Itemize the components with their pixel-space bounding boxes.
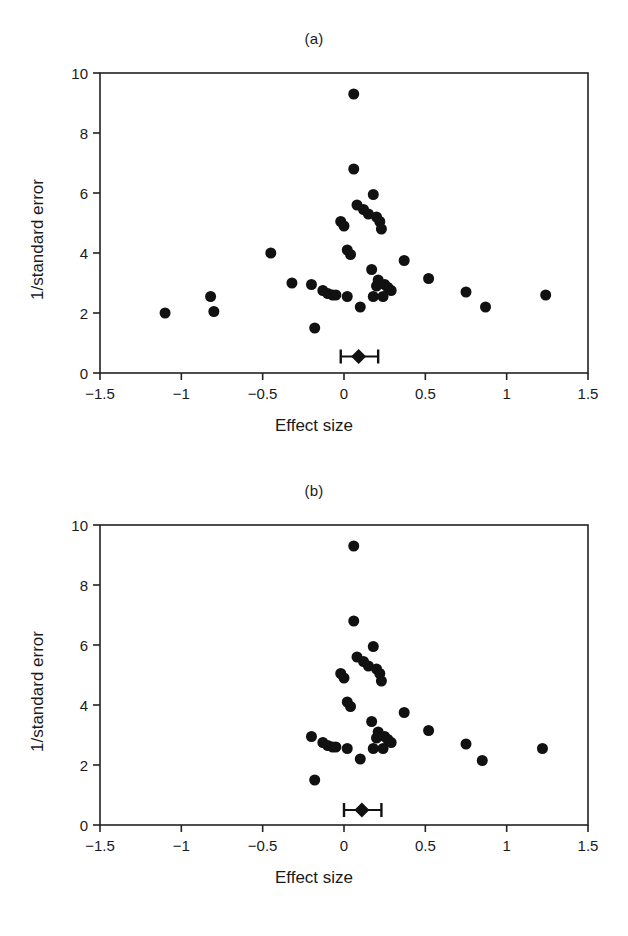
data-point xyxy=(348,89,359,100)
data-point xyxy=(378,291,389,302)
data-point xyxy=(368,641,379,652)
x-axis-tick-label: 0 xyxy=(340,837,348,854)
summary-diamond-icon xyxy=(354,803,369,818)
x-axis-tick-label: −1 xyxy=(173,385,190,402)
x-axis-tick-label: 0.5 xyxy=(415,837,436,854)
data-point xyxy=(342,743,353,754)
data-point xyxy=(208,306,219,317)
data-point xyxy=(309,775,320,786)
funnel-plot-figure: (a) 0246810−1.5−1−0.500.511.5 Effect siz… xyxy=(0,0,628,936)
data-point xyxy=(368,743,379,754)
data-point xyxy=(205,291,216,302)
data-point xyxy=(540,290,551,301)
data-point xyxy=(366,716,377,727)
summary-effect-marker xyxy=(341,349,378,364)
data-point xyxy=(366,264,377,275)
summary-effect-marker xyxy=(344,803,381,818)
data-point xyxy=(330,742,341,753)
x-axis-tick-label: 1 xyxy=(502,385,510,402)
panel-a: (a) 0246810−1.5−1−0.500.511.5 Effect siz… xyxy=(0,0,628,452)
data-point xyxy=(477,755,488,766)
data-point xyxy=(342,291,353,302)
data-point xyxy=(480,302,491,313)
data-point xyxy=(399,255,410,266)
x-axis-tick-label: −1 xyxy=(173,837,190,854)
data-point xyxy=(348,541,359,552)
data-point xyxy=(423,725,434,736)
data-point xyxy=(399,707,410,718)
data-point xyxy=(348,164,359,175)
data-point xyxy=(339,673,350,684)
data-point xyxy=(355,754,366,765)
data-point xyxy=(348,616,359,627)
x-axis-tick-label: −1.5 xyxy=(85,837,115,854)
y-axis-tick-label: 0 xyxy=(80,817,88,834)
data-point xyxy=(368,189,379,200)
x-axis-tick-label: −0.5 xyxy=(248,837,278,854)
x-axis-tick-label: 1.5 xyxy=(578,837,599,854)
data-point xyxy=(345,249,356,260)
data-point xyxy=(371,733,382,744)
data-point xyxy=(265,248,276,259)
summary-diamond-icon xyxy=(351,349,366,364)
data-point xyxy=(371,281,382,292)
data-point xyxy=(339,221,350,232)
data-point xyxy=(330,290,341,301)
data-point xyxy=(286,278,297,289)
data-point xyxy=(423,273,434,284)
data-point xyxy=(368,291,379,302)
data-point xyxy=(376,224,387,235)
panel-a-x-axis-title: Effect size xyxy=(0,416,628,436)
data-point xyxy=(345,701,356,712)
y-axis-tick-label: 10 xyxy=(71,517,88,534)
data-point xyxy=(378,743,389,754)
panel-b: (b) 0246810−1.5−1−0.500.511.5 Effect siz… xyxy=(0,452,628,904)
y-axis-tick-label: 8 xyxy=(80,577,88,594)
y-axis-tick-label: 0 xyxy=(80,365,88,382)
data-point xyxy=(537,743,548,754)
data-point xyxy=(355,302,366,313)
data-point xyxy=(461,739,472,750)
data-point xyxy=(461,287,472,298)
y-axis-tick-label: 8 xyxy=(80,125,88,142)
data-point xyxy=(160,308,171,319)
caption-fragment xyxy=(0,922,628,936)
data-point xyxy=(306,279,317,290)
panel-a-y-axis-title: 1/standard error xyxy=(28,179,48,300)
y-axis-tick-label: 4 xyxy=(80,697,88,714)
panel-b-plot: 0246810−1.5−1−0.500.511.5 xyxy=(0,452,628,904)
x-axis-tick-label: −1.5 xyxy=(85,385,115,402)
y-axis-tick-label: 6 xyxy=(80,185,88,202)
panel-a-plot: 0246810−1.5−1−0.500.511.5 xyxy=(0,0,628,452)
y-axis-tick-label: 6 xyxy=(80,637,88,654)
y-axis-tick-label: 4 xyxy=(80,245,88,262)
data-point xyxy=(309,323,320,334)
panel-b-x-axis-title: Effect size xyxy=(0,868,628,888)
y-axis-tick-label: 2 xyxy=(80,305,88,322)
x-axis-tick-label: 0.5 xyxy=(415,385,436,402)
x-axis-tick-label: −0.5 xyxy=(248,385,278,402)
x-axis-tick-label: 1.5 xyxy=(578,385,599,402)
data-point xyxy=(306,731,317,742)
x-axis-tick-label: 1 xyxy=(502,837,510,854)
x-axis-tick-label: 0 xyxy=(340,385,348,402)
y-axis-tick-label: 10 xyxy=(71,65,88,82)
y-axis-tick-label: 2 xyxy=(80,757,88,774)
data-point xyxy=(376,676,387,687)
panel-b-y-axis-title: 1/standard error xyxy=(28,631,48,752)
